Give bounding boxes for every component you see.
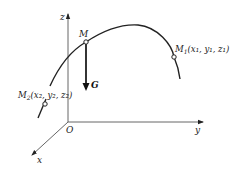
z-axis-label: z bbox=[59, 12, 65, 22]
gravity-label: G bbox=[91, 80, 99, 90]
point-m1-label: M1(x₁, y₁, z₁) bbox=[174, 44, 229, 55]
y-axis-label: y bbox=[194, 125, 201, 135]
x-axis bbox=[32, 122, 68, 155]
x-axis-label: x bbox=[37, 155, 42, 165]
point-m2-marker bbox=[43, 102, 47, 106]
origin-label: O bbox=[66, 125, 74, 135]
point-m1-marker bbox=[172, 55, 176, 59]
trajectory-curve bbox=[50, 25, 180, 86]
point-m-label: M bbox=[78, 29, 89, 39]
trajectory-diagram: z y x O G M M1(x₁, y₁, z₁) M2(x₂, y₂, z₂… bbox=[0, 0, 232, 170]
point-m-marker bbox=[84, 40, 88, 44]
point-m2-label: M2(x₂, y₂, z₂) bbox=[17, 90, 72, 101]
